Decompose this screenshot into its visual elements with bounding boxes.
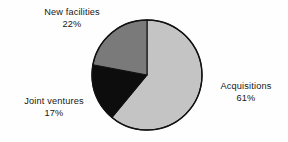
pie-label-new-facilities-percent: 22% [22,19,122,31]
pie-label-acquisitions-name: Acquisitions [208,81,284,93]
pie-chart-figure: New facilities 22% Joint ventures 17% Ac… [0,0,288,142]
pie-label-new-facilities-name: New facilities [22,7,122,19]
pie-label-acquisitions: Acquisitions 61% [208,81,284,105]
pie-label-acquisitions-percent: 61% [208,93,284,105]
pie-label-joint-ventures-name: Joint ventures [2,96,106,108]
pie-label-new-facilities: New facilities 22% [22,7,122,31]
pie-label-joint-ventures: Joint ventures 17% [2,96,106,120]
pie-label-joint-ventures-percent: 17% [2,108,106,120]
